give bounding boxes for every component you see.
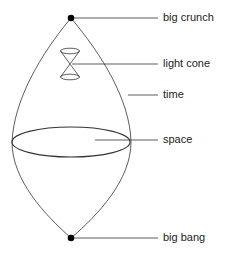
big-bang-label: big bang: [163, 231, 205, 243]
spacetime-diagram: [0, 0, 227, 253]
spacetime-boundary-right: [71, 18, 131, 238]
light-cone-label: light cone: [163, 57, 210, 69]
space-slice-ellipse: [12, 127, 130, 157]
big-crunch-label: big crunch: [163, 11, 214, 23]
time-label: time: [163, 88, 184, 100]
space-label: space: [163, 133, 192, 145]
spacetime-boundary-left: [12, 18, 71, 238]
big-bang-dot: [68, 235, 75, 242]
big-crunch-dot: [68, 15, 75, 22]
